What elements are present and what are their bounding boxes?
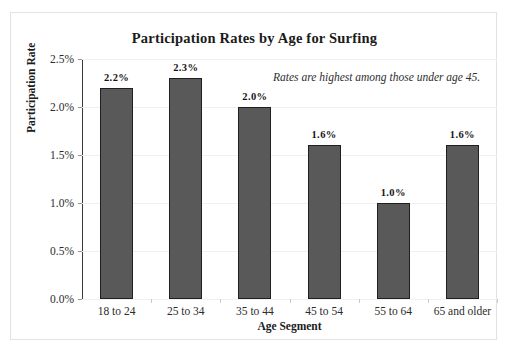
y-gridline: [82, 203, 497, 204]
x-tick-mark: [290, 299, 291, 303]
bar: [238, 107, 271, 299]
bar-value-label: 1.0%: [381, 187, 406, 198]
bar-value-label: 2.2%: [104, 72, 129, 83]
y-tick-mark: [78, 251, 82, 252]
x-tick-label: 35 to 44: [236, 305, 274, 317]
y-tick-mark: [78, 203, 82, 204]
y-tick-label: 0.5%: [50, 245, 74, 257]
y-tick-label: 2.5%: [50, 53, 74, 65]
x-tick-mark: [220, 299, 221, 303]
chart-title: Participation Rates by Age for Surfing: [11, 30, 498, 47]
y-gridline: [82, 107, 497, 108]
x-tick-label: 65 and older: [434, 305, 491, 317]
x-tick-label: 45 to 54: [305, 305, 343, 317]
y-gridline: [82, 155, 497, 156]
x-tick-label: 18 to 24: [98, 305, 136, 317]
bar-value-label: 2.3%: [173, 62, 198, 73]
y-tick-mark: [78, 59, 82, 60]
bar-value-label: 2.0%: [242, 91, 267, 102]
bar: [169, 78, 202, 299]
y-tick-mark: [78, 155, 82, 156]
bar: [377, 203, 410, 299]
x-tick-label: 55 to 64: [374, 305, 412, 317]
y-axis-title: Participation Rate: [25, 43, 37, 133]
x-tick-mark: [497, 299, 498, 303]
y-axis-line: [82, 59, 83, 300]
y-tick-label: 1.0%: [50, 197, 74, 209]
x-tick-mark: [151, 299, 152, 303]
y-tick-label: 2.0%: [50, 101, 74, 113]
plot-area: 0.0%0.5%1.0%1.5%2.0%2.5% 2.2%2.3%2.0%1.6…: [82, 59, 497, 299]
y-tick-mark: [78, 299, 82, 300]
bar-value-label: 1.6%: [311, 129, 336, 140]
chart-frame: Participation Rates by Age for Surfing R…: [10, 12, 497, 340]
chart-screenshot: Participation Rates by Age for Surfing R…: [0, 0, 510, 352]
y-tick-mark: [78, 107, 82, 108]
bar: [308, 145, 341, 299]
bar-value-label: 1.6%: [450, 129, 475, 140]
y-tick-label: 0.0%: [50, 293, 74, 305]
bar: [446, 145, 479, 299]
bar: [100, 88, 133, 299]
x-tick-mark: [428, 299, 429, 303]
x-axis-title: Age Segment: [82, 320, 497, 332]
y-gridline: [82, 251, 497, 252]
y-gridline: [82, 59, 497, 60]
x-tick-mark: [359, 299, 360, 303]
x-tick-label: 25 to 34: [167, 305, 205, 317]
y-tick-label: 1.5%: [50, 149, 74, 161]
